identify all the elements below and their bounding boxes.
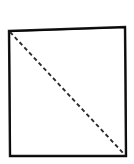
drawing-svg	[0, 0, 134, 164]
canvas-background	[0, 0, 134, 164]
figure-canvas	[0, 0, 134, 164]
